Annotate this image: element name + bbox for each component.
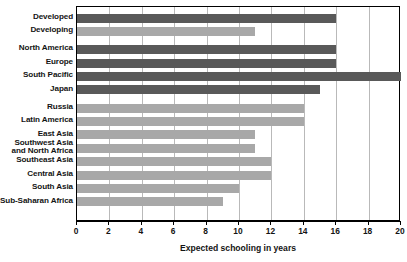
bar-row [77,104,399,113]
category-label: Sub-Saharan Africa [0,197,73,206]
bar-row [77,85,399,94]
x-tick-mark [206,221,207,225]
x-tick-mark [141,221,142,225]
category-label: North America [19,44,73,53]
bar-chart: DevelopedDevelopingNorth AmericaEuropeSo… [0,0,407,262]
x-tick-mark [108,221,109,225]
category-label: South Asia [32,183,73,192]
category-label: Europe [46,58,73,67]
bar [77,85,320,94]
x-tick-label: 8 [203,226,208,236]
category-axis-labels: DevelopedDevelopingNorth AmericaEuropeSo… [0,6,73,221]
bar-row [77,59,399,68]
x-tick-mark [335,221,336,225]
bar-row [77,45,399,54]
x-tick-label: 14 [298,226,307,236]
x-tick-mark [303,221,304,225]
category-label: Latin America [21,116,73,125]
bar-row [77,157,399,166]
category-label: South Pacific [23,71,73,80]
bar [77,59,336,68]
bar-row [77,27,399,36]
x-tick-label: 6 [171,226,176,236]
bar-row [77,130,399,139]
bar [77,197,223,206]
bar-row [77,14,399,23]
category-label: Developing [30,26,73,35]
x-tick-label: 16 [331,226,340,236]
bar [77,27,255,36]
x-tick-label: 0 [74,226,79,236]
bar [77,144,255,153]
bar-row [77,117,399,126]
x-tick-mark [270,221,271,225]
category-label: Southeast Asia [16,156,73,165]
bar [77,45,336,54]
x-tick-label: 18 [363,226,372,236]
category-label: East Asia [38,130,73,139]
x-tick-mark [368,221,369,225]
bar [77,72,401,81]
bar-row [77,171,399,180]
x-tick-mark [238,221,239,225]
x-tick-label: 2 [106,226,111,236]
bar [77,184,239,193]
bar [77,157,271,166]
x-axis-title: Expected schooling in years [76,243,400,253]
category-label: Southwest Asia and North Africa [11,139,73,156]
bar-row [77,197,399,206]
bar [77,104,304,113]
x-tick-label: 12 [266,226,275,236]
x-tick-mark [173,221,174,225]
bar-row [77,72,399,81]
bar-row [77,144,399,153]
category-label: Japan [50,85,73,94]
x-tick-mark [400,221,401,225]
category-label: Central Asia [27,170,73,179]
bar [77,14,336,23]
bar-rows [77,7,399,220]
bar [77,171,271,180]
x-tick-mark [76,221,77,225]
category-label: Russia [47,103,73,112]
x-tick-label: 10 [233,226,242,236]
bar-row [77,184,399,193]
bar [77,117,304,126]
category-label: Developed [33,13,73,22]
x-tick-label: 20 [395,226,404,236]
x-tick-label: 4 [138,226,143,236]
plot-area [76,6,400,221]
bar [77,130,255,139]
